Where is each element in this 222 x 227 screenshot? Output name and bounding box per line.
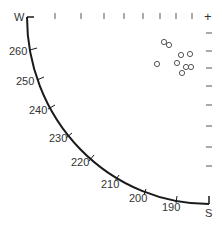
data-point [166,42,171,47]
arc-label-220: 220 [71,156,89,168]
data-point [161,39,166,44]
s-label: S [205,207,212,219]
azimuth-chart: W + S 260 250 240 [0,0,222,227]
data-point [174,60,179,65]
data-point [178,52,183,57]
arc-label-250: 250 [16,75,34,87]
arc-label-200: 200 [129,192,147,204]
right-ticks [206,33,212,166]
data-point [179,70,184,75]
top-ticks [55,13,192,19]
arc-label-190: 190 [162,201,180,213]
data-point [154,61,159,66]
w-label: W [14,11,25,23]
arc-label-210: 210 [101,178,119,190]
arc-label-260: 260 [9,45,27,57]
plus-marker: + [204,9,212,24]
arc-label-230: 230 [49,132,67,144]
data-point [187,51,192,56]
data-point [188,64,193,69]
data-point [183,64,188,69]
arc-label-240: 240 [29,104,47,116]
data-points [154,39,193,75]
